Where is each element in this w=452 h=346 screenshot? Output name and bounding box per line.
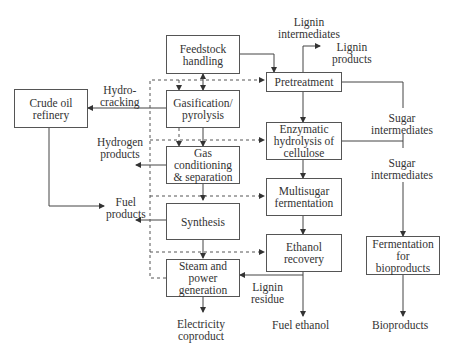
crude-oil-refinery-box: Crude oil refinery [14,89,88,128]
bioproducts-label: Bioproducts [372,319,428,331]
hydrogen-products-label: Hydrogen products [97,136,143,160]
electricity-coproduct-label: Electricity coproduct [177,318,225,342]
enzymatic-hydrolysis-box: Enzymatic hydrolysis of cellulose [266,122,342,160]
fuel-ethanol-label: Fuel ethanol [272,319,329,331]
feedstock-handling-box: Feedstock handling [166,35,240,74]
steam-power-box: Steam and power generation [166,259,240,297]
fermentation-bioproducts-box: Fermentation for bioproducts [366,236,440,275]
lignin-residue-label: Lignin residue [251,281,284,305]
fuel-products-label: Fuel products [106,196,146,220]
pretreatment-box: Pretreatment [266,72,342,92]
sugar-intermediates-label-1: Sugar intermediates [371,112,433,136]
synthesis-box: Synthesis [166,203,240,240]
ethanol-recovery-box: Ethanol recovery [266,234,342,272]
lignin-intermediates-label: Lignin intermediates [278,16,340,40]
multisugar-fermentation-box: Multisugar fermentation [266,178,342,216]
gasification-box: Gasification/ pyrolysis [166,90,240,128]
gas-conditioning-box: Gas conditioning & separation [166,146,240,184]
sugar-intermediates-label-2: Sugar intermediates [371,157,433,181]
lignin-products-label: Lignin products [332,41,372,65]
hydrocracking-label: Hydro- cracking [100,84,140,108]
